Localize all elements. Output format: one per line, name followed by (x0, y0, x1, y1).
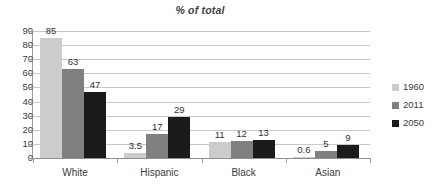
bar-value-label: 29 (159, 105, 199, 115)
y-axis-tick-mark (28, 59, 33, 60)
bar-black-1960 (209, 142, 231, 158)
bar-black-2050 (253, 140, 275, 158)
category-label-asian: Asian (286, 167, 370, 178)
legend-item-2011[interactable]: 2011 (392, 96, 440, 114)
bar-chart: % of total 9080706050403020100 8563473.5… (0, 0, 440, 189)
y-axis-tick-mark (28, 73, 33, 74)
bar-value-label: 85 (31, 26, 71, 36)
legend-swatch-icon (392, 84, 399, 91)
bar-value-label: 47 (75, 80, 115, 90)
category-label-hispanic: Hispanic (117, 167, 201, 178)
bar-white-1960 (40, 38, 62, 158)
legend-label: 2050 (403, 118, 424, 128)
bar-hispanic-2011 (146, 134, 168, 158)
bar-asian-2050 (337, 145, 359, 158)
x-axis-tick-mark (370, 158, 371, 163)
bar-asian-1960 (293, 157, 315, 158)
bar-hispanic-2050 (168, 117, 190, 158)
legend-label: 1960 (403, 82, 424, 92)
chart-title: % of total (0, 4, 400, 16)
y-axis-tick-mark (28, 116, 33, 117)
bar-asian-2011 (315, 151, 337, 158)
bar-white-2050 (84, 92, 106, 158)
x-axis-tick-mark (202, 158, 203, 163)
gridline (33, 31, 370, 32)
y-axis-tick-mark (28, 87, 33, 88)
legend-item-2050[interactable]: 2050 (392, 114, 440, 132)
y-axis-tick-mark (28, 102, 33, 103)
category-label-white: White (33, 167, 117, 178)
y-axis-tick-mark (28, 45, 33, 46)
legend-swatch-icon (392, 120, 399, 127)
x-axis-tick-mark (117, 158, 118, 163)
bar-black-2011 (231, 141, 253, 158)
category-label-black: Black (202, 167, 286, 178)
legend-label: 2011 (403, 100, 423, 110)
x-axis-tick-mark (33, 158, 34, 163)
legend-swatch-icon (392, 102, 399, 109)
x-axis-tick-mark (286, 158, 287, 163)
gridline (33, 45, 370, 46)
y-axis: 9080706050403020100 (0, 0, 33, 189)
bar-value-label: 63 (53, 57, 93, 67)
bar-value-label: 13 (244, 128, 284, 138)
chart-legend: 196020112050 (392, 78, 440, 132)
legend-item-1960[interactable]: 1960 (392, 78, 440, 96)
y-axis-tick-mark (28, 130, 33, 131)
bar-value-label: 9 (328, 133, 368, 143)
bar-hispanic-1960 (124, 153, 146, 158)
y-axis-tick-mark (28, 144, 33, 145)
